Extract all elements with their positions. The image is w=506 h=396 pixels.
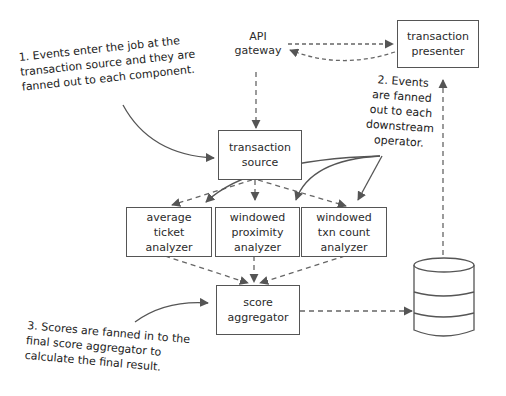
windowed-txn-count-analyzer-node: windowed txn count analyzer	[301, 207, 387, 257]
annotation-2: 2. Events are fanned out to each downstr…	[353, 71, 448, 152]
windowed-proximity-analyzer-node: windowed proximity analyzer	[215, 207, 300, 257]
transaction-presenter-node: transaction presenter	[397, 20, 479, 68]
database-icon	[414, 258, 474, 336]
average-ticket-analyzer-node: average ticket analyzer	[126, 207, 212, 257]
edge-txncount-to-aggregator	[260, 256, 345, 283]
note2-arrow-txncount	[358, 156, 382, 200]
transaction-source-node: transaction source	[218, 130, 302, 180]
edge-presenter-to-gateway	[290, 50, 395, 61]
api-gateway-node: API gateway	[228, 30, 288, 58]
edge-source-to-txncount	[258, 180, 346, 206]
note1-arrow	[123, 105, 214, 158]
score-aggregator-node: score aggregator	[216, 285, 300, 335]
edge-source-to-average	[172, 180, 252, 205]
edge-average-to-aggregator	[165, 256, 248, 283]
note3-arrow	[135, 303, 208, 322]
